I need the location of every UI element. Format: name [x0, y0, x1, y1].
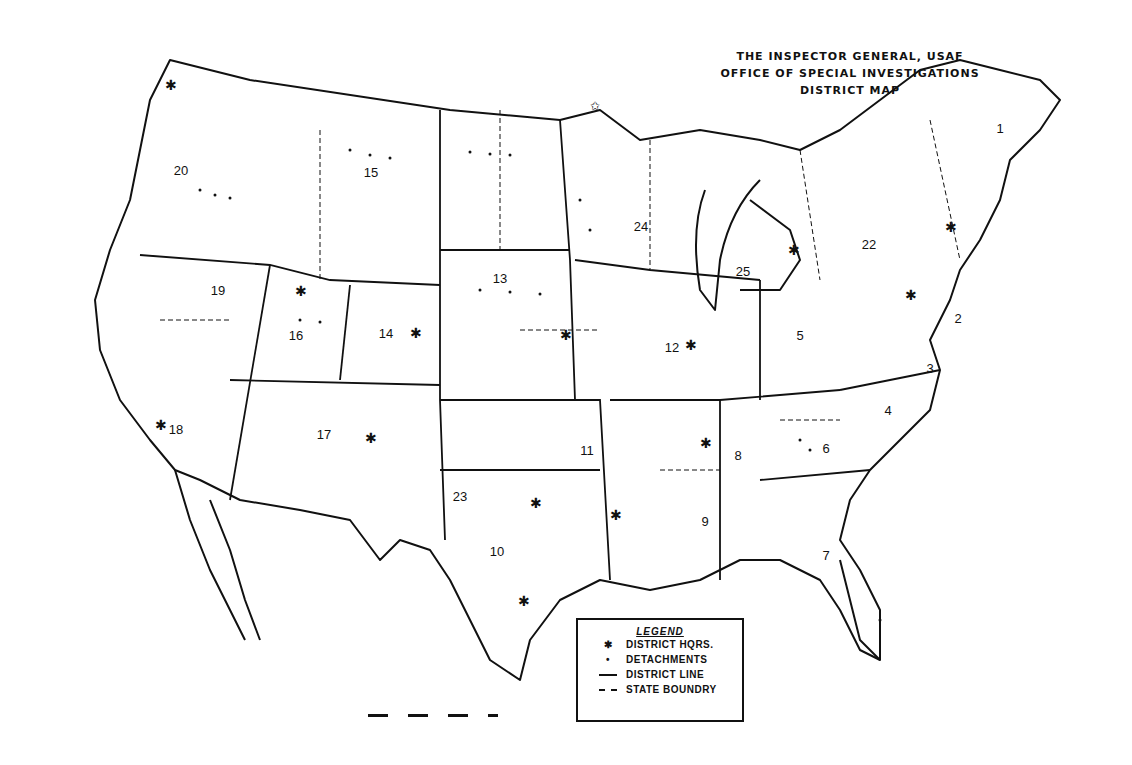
svg-text:✱: ✱ — [295, 283, 307, 299]
title-line-2: OFFICE OF SPECIAL INVESTIGATIONS — [700, 65, 1000, 82]
district-number: 24 — [634, 219, 648, 234]
svg-text:✱: ✱ — [788, 242, 800, 258]
district-number: 10 — [490, 544, 504, 559]
district-number: 15 — [364, 165, 378, 180]
svg-text:✱: ✱ — [685, 337, 697, 353]
legend: LEGEND ✱ DISTRICT HQRS. • DETACHMENTS DI… — [576, 618, 744, 722]
district-number: 14 — [379, 326, 393, 341]
district-number: 22 — [862, 237, 876, 252]
district-number: 19 — [211, 283, 225, 298]
svg-text:✱: ✱ — [365, 430, 377, 446]
svg-text:✱: ✱ — [530, 495, 542, 511]
district-number: 7 — [822, 548, 829, 563]
district-number: 4 — [884, 403, 891, 418]
us-map: ✱ ✱ ✱ ✱ ✱ ✱ ✱ ✱ ✱ ✱ ✱ ✱ ✱ ✱ ✩ — [0, 0, 1132, 765]
svg-text:✱: ✱ — [518, 593, 530, 609]
scale-bar — [368, 710, 498, 720]
district-number: 12 — [665, 340, 679, 355]
dashed-line-icon — [598, 684, 618, 695]
svg-text:✱: ✱ — [560, 327, 572, 343]
district-number: 9 — [701, 514, 708, 529]
title-line-3: DISTRICT MAP — [700, 82, 1000, 99]
legend-item-hq: ✱ DISTRICT HQRS. — [578, 637, 742, 652]
svg-text:✱: ✱ — [610, 507, 622, 523]
legend-heading: LEGEND — [578, 626, 742, 637]
district-number: 20 — [174, 163, 188, 178]
svg-text:✱: ✱ — [155, 417, 167, 433]
svg-text:✩: ✩ — [590, 99, 600, 113]
district-number: 18 — [169, 422, 183, 437]
district-number: 5 — [796, 328, 803, 343]
district-number: 1 — [996, 121, 1003, 136]
district-number: 11 — [580, 443, 594, 458]
district-number: 6 — [822, 441, 829, 456]
legend-item-state-boundary: STATE BOUNDRY — [578, 682, 742, 697]
legend-item-detachments: • DETACHMENTS — [578, 652, 742, 667]
district-number: 25 — [736, 264, 750, 279]
district-number: 16 — [289, 328, 303, 343]
svg-text:✱: ✱ — [945, 219, 957, 235]
svg-text:✱: ✱ — [165, 77, 177, 93]
district-number: 17 — [317, 427, 331, 442]
dot-icon: • — [598, 654, 618, 665]
svg-text:✱: ✱ — [700, 435, 712, 451]
district-number: 2 — [954, 311, 961, 326]
title-line-1: THE INSPECTOR GENERAL, USAF — [700, 48, 1000, 65]
map-title: THE INSPECTOR GENERAL, USAF OFFICE OF SP… — [700, 48, 1000, 99]
district-number: 23 — [453, 489, 467, 504]
district-number: 3 — [926, 361, 933, 376]
legend-label: STATE BOUNDRY — [626, 684, 717, 695]
svg-text:✱: ✱ — [410, 325, 422, 341]
baja-outline — [175, 470, 245, 640]
solid-line-icon — [598, 669, 618, 680]
legend-label: DISTRICT LINE — [626, 669, 704, 680]
legend-label: DETACHMENTS — [626, 654, 707, 665]
district-number: 8 — [734, 448, 741, 463]
star-icon: ✱ — [598, 639, 618, 650]
district-number: 13 — [493, 271, 507, 286]
us-outline — [95, 60, 1060, 680]
legend-label: DISTRICT HQRS. — [626, 639, 714, 650]
legend-item-district-line: DISTRICT LINE — [578, 667, 742, 682]
svg-text:✱: ✱ — [905, 287, 917, 303]
